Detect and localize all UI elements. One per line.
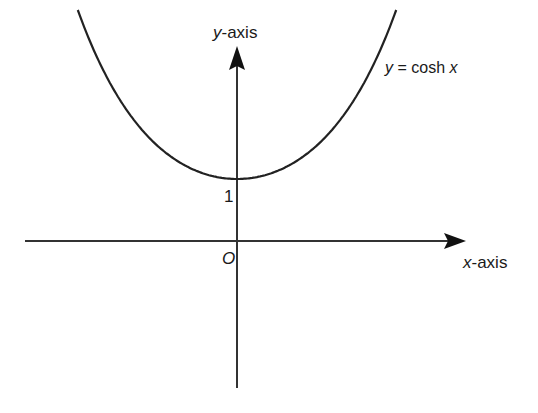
y-axis-suffix: -axis — [222, 23, 258, 42]
intercept-label: 1 — [224, 188, 233, 205]
curve-label-x: x — [449, 59, 457, 76]
y-axis-var: y — [213, 23, 222, 42]
x-axis-suffix: -axis — [472, 253, 508, 272]
curve-label-y: y — [385, 59, 393, 76]
origin-label: O — [222, 250, 235, 267]
x-axis-var: x — [463, 253, 472, 272]
curve-label-eq: = cosh — [393, 59, 449, 76]
y-axis-label: y-axis — [213, 24, 257, 41]
x-axis-label: x-axis — [463, 254, 507, 271]
curve-label: y = cosh x — [385, 60, 457, 76]
